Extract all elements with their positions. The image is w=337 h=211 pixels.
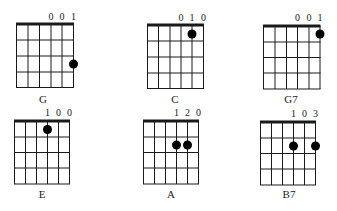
chord-name: B7 [283,189,296,200]
chord-name: G [39,94,47,105]
finger-dot [43,125,52,134]
finger-dot [316,30,325,39]
fretboard-grid [263,26,321,90]
fretboard-grid [14,121,70,185]
fingering-label: 1 [71,12,76,22]
fretboard-lines [16,24,74,88]
nut [147,24,204,27]
fingering-label: 3 [313,109,318,119]
fretboard-grid [147,25,204,89]
chord-name: G7 [284,94,297,105]
fingering-label: 1 [291,109,296,119]
chord-name: A [167,189,175,200]
fretboard-lines [260,122,316,186]
fretboard-lines [143,121,199,185]
fingering-label: 0 [179,13,184,23]
nut [143,120,199,123]
finger-dot [69,60,78,69]
finger-dot [289,142,298,151]
fretboard-grid [16,24,74,88]
fingering-label: 0 [56,108,61,118]
fretboard-grid [260,122,316,186]
fingering-label: 1 [45,108,50,118]
finger-dot [188,30,197,39]
finger-dot [311,142,320,151]
fingering-label: 0 [201,13,206,23]
fingering-label: 0 [295,13,300,23]
nut [260,121,316,124]
fretboard-lines [14,121,70,185]
fretboard-grid [143,121,199,185]
fingering-label: 0 [307,13,312,23]
finger-dot [172,141,181,150]
fingering-label: 0 [49,12,54,22]
fingering-label: 1 [190,13,195,23]
nut [14,120,70,123]
fingering-label: 1 [174,108,179,118]
fretboard-lines [147,25,204,89]
chord-name: C [171,94,178,105]
finger-dot [183,141,192,150]
fretboard-lines [263,26,321,90]
fingering-label: 0 [60,12,65,22]
fingering-label: 0 [67,108,72,118]
fingering-label: 1 [318,13,323,23]
nut [16,23,74,26]
fingering-label: 0 [196,108,201,118]
nut [263,25,321,28]
fingering-label: 0 [302,109,307,119]
chord-name: E [39,189,46,200]
fingering-label: 2 [185,108,190,118]
